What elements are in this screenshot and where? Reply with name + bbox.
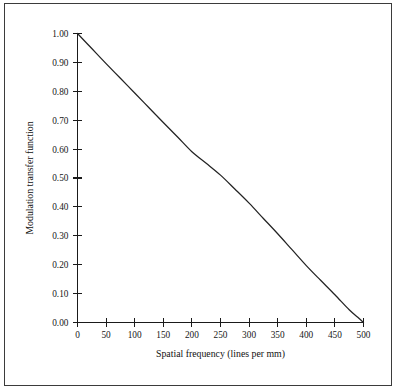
y-tick-label: 0.60 bbox=[52, 145, 69, 155]
y-tick-label: 0.90 bbox=[52, 58, 69, 68]
x-tick-label: 200 bbox=[185, 330, 199, 340]
x-tick-label: 350 bbox=[271, 330, 285, 340]
x-tick-label: 0 bbox=[75, 330, 80, 340]
x-axis-tick-labels: 050100150200250300350400450500 bbox=[75, 330, 371, 340]
x-tick-label: 100 bbox=[128, 330, 142, 340]
y-tick-label: 0.00 bbox=[52, 318, 69, 328]
y-tick-label: 0.10 bbox=[52, 289, 69, 299]
x-axis-title: Spatial frequency (lines per mm) bbox=[156, 348, 285, 360]
figure-page: 0.000.100.200.300.400.500.600.700.800.90… bbox=[0, 0, 396, 390]
x-tick-label: 450 bbox=[328, 330, 342, 340]
chart-canvas: 0.000.100.200.300.400.500.600.700.800.90… bbox=[0, 0, 396, 390]
y-tick-label: 0.20 bbox=[52, 260, 69, 270]
y-tick-label: 0.30 bbox=[52, 231, 69, 241]
mtf-chart: 0.000.100.200.300.400.500.600.700.800.90… bbox=[0, 0, 396, 390]
x-tick-label: 300 bbox=[242, 330, 256, 340]
y-axis-title: Modulation transfer function bbox=[24, 121, 35, 234]
y-tick-label: 0.80 bbox=[52, 87, 69, 97]
mtf-curve bbox=[78, 34, 364, 323]
x-tick-label: 150 bbox=[156, 330, 170, 340]
x-tick-label: 400 bbox=[299, 330, 313, 340]
y-axis-tick-labels: 0.000.100.200.300.400.500.600.700.800.90… bbox=[52, 29, 69, 328]
y-tick-label: 1.00 bbox=[52, 29, 69, 39]
x-tick-label: 250 bbox=[214, 330, 228, 340]
y-tick-label: 0.50 bbox=[52, 173, 69, 183]
x-tick-label: 50 bbox=[101, 330, 111, 340]
y-tick-label: 0.70 bbox=[52, 116, 69, 126]
x-tick-label: 500 bbox=[357, 330, 371, 340]
y-tick-label: 0.40 bbox=[52, 202, 69, 212]
